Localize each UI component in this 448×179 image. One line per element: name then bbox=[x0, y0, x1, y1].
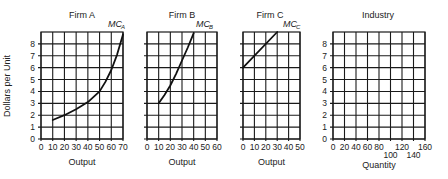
firmB-xtick-label: 50 bbox=[201, 142, 211, 152]
firmB-xtick-label: 60 bbox=[212, 142, 222, 152]
industry-xtick-label: 20 bbox=[340, 142, 350, 152]
industry-ytick-label: 7 bbox=[322, 51, 327, 61]
firmC-mc-subscript: C bbox=[296, 24, 301, 30]
firmA-ytick-label: 6 bbox=[30, 63, 35, 73]
firmB-xtick-label: 0 bbox=[145, 142, 150, 152]
firmB-xtick-label: 40 bbox=[189, 142, 199, 152]
industry-ytick-label: 3 bbox=[322, 98, 327, 108]
firmB-xtick-label: 20 bbox=[166, 142, 176, 152]
firmA-ytick-label: 2 bbox=[30, 110, 35, 120]
firmA-ytick-label: 8 bbox=[30, 39, 35, 49]
firmC-title: Firm C bbox=[257, 10, 284, 20]
firmA-frame bbox=[41, 32, 123, 139]
industry-xtick-label: 0 bbox=[331, 142, 336, 152]
industry-ytick-label: 5 bbox=[322, 75, 327, 85]
industry-xtick-label: 40 bbox=[351, 142, 361, 152]
industry-ytick-label: 1 bbox=[322, 122, 327, 132]
firmA-ytick-label: 3 bbox=[30, 98, 35, 108]
industry-xtick-label: 160 bbox=[418, 142, 432, 152]
firmB-mc-subscript: B bbox=[209, 24, 213, 30]
firmC-xtick-label: 20 bbox=[261, 142, 271, 152]
firmA-xtick-label: 60 bbox=[107, 142, 117, 152]
firmC-x-axis-label: Output bbox=[258, 157, 286, 167]
firmC-mc-curve bbox=[243, 32, 277, 68]
firmA-ytick-label: 7 bbox=[30, 51, 35, 61]
industry-ytick-label: 8 bbox=[322, 39, 327, 49]
firmA-ytick-label: 1 bbox=[30, 122, 35, 132]
firmC-xtick-label: 30 bbox=[272, 142, 282, 152]
y-axis-label: Dollars per Unit bbox=[2, 54, 12, 117]
firmB-xtick-label: 10 bbox=[154, 142, 164, 152]
firmA-ytick-label: 0 bbox=[30, 134, 35, 144]
firmB-title: Firm B bbox=[169, 10, 196, 20]
firmB-x-axis-label: Output bbox=[168, 157, 196, 167]
firmA-ytick-label: 4 bbox=[30, 86, 35, 96]
firmA-ytick-label: 5 bbox=[30, 75, 35, 85]
industry-title: Industry bbox=[362, 10, 395, 20]
firmA-x-axis-label: Output bbox=[68, 157, 96, 167]
industry-xtick-label: 60 bbox=[363, 142, 373, 152]
firmA-xtick-label: 10 bbox=[48, 142, 58, 152]
industry-ytick-label: 2 bbox=[322, 110, 327, 120]
firmC-xtick-label: 40 bbox=[284, 142, 294, 152]
marginal-cost-figure: Dollars per Unit Firm A01234567801020304… bbox=[0, 0, 448, 179]
firmA-xtick-label: 50 bbox=[95, 142, 105, 152]
firmC-xtick-label: 10 bbox=[250, 142, 260, 152]
firmA-xtick-label: 40 bbox=[83, 142, 93, 152]
firmC-xtick-label: 0 bbox=[241, 142, 246, 152]
firmA-xtick-label: 0 bbox=[39, 142, 44, 152]
firmA-mc-subscript: A bbox=[120, 24, 125, 30]
industry-ytick-label: 6 bbox=[322, 63, 327, 73]
firmC-xtick-label: 50 bbox=[295, 142, 305, 152]
firmA-xtick-label: 20 bbox=[60, 142, 70, 152]
firmC-frame bbox=[243, 32, 300, 139]
firmB-xtick-label: 30 bbox=[177, 142, 187, 152]
firmA-xtick-label: 30 bbox=[71, 142, 81, 152]
firmA-xtick-label: 70 bbox=[118, 142, 128, 152]
industry-x-axis-label: Quantity bbox=[362, 160, 396, 170]
firmA-title: Firm A bbox=[69, 10, 95, 20]
industry-ytick-label: 0 bbox=[322, 134, 327, 144]
industry-ytick-label: 4 bbox=[322, 86, 327, 96]
